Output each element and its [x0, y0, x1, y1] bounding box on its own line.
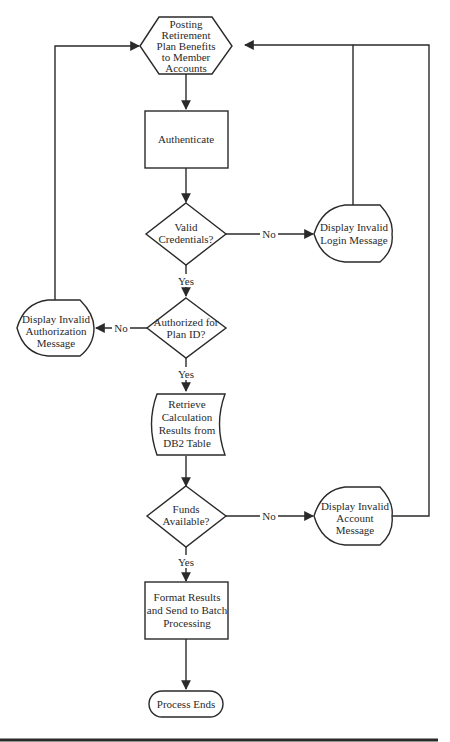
node-invalid-login: Display InvalidLogin Message — [314, 205, 392, 262]
flowchart: No Yes No Yes No Yes PostingRetirementPl… — [0, 0, 450, 742]
node-retrieve: RetrieveCalculationResults fromDB2 Table — [152, 394, 226, 455]
node-start: PostingRetirementPlan Benefitsto MemberA… — [140, 17, 232, 74]
node-end: Process Ends — [149, 691, 223, 717]
label-yes-authorized: Yes — [178, 368, 194, 380]
edge-authorization-loop — [55, 46, 139, 300]
node-authenticate: Authenticate — [145, 111, 228, 168]
label-no-funds: No — [262, 510, 276, 522]
node-funds-available: FundsAvailable? — [147, 486, 226, 547]
node-invalid-account: Display InvalidAccountMessage — [314, 487, 392, 545]
connectors — [55, 45, 429, 689]
node-authorized: Authorized forPlan ID? — [147, 298, 226, 358]
label-yes-credentials: Yes — [178, 275, 194, 287]
label-no-credentials: No — [262, 228, 276, 240]
edge-account-loop — [353, 45, 429, 516]
node-format-results: Format Resultsand Send to BatchProcessin… — [145, 582, 228, 639]
edge-login-loop — [245, 45, 353, 205]
node-invalid-login-text: Display InvalidLogin Message — [320, 221, 389, 246]
node-invalid-authorization: Display InvalidAuthorizationMessage — [17, 300, 94, 356]
node-valid-credentials: ValidCredentials? — [146, 203, 226, 265]
node-authenticate-text: Authenticate — [158, 133, 214, 145]
label-yes-funds: Yes — [178, 556, 194, 568]
label-no-authorized: No — [114, 322, 128, 334]
node-end-text: Process Ends — [157, 698, 215, 710]
